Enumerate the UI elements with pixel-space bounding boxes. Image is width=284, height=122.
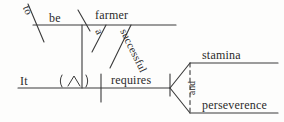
predicate-noun-divider-line [78,10,90,31]
object-second-label: perseverence [202,99,267,111]
subject-label: It [20,75,28,87]
verb-label: requires [111,74,151,86]
predicate-noun-label: farmer [95,9,128,21]
object-first-label: stamina [202,49,241,61]
conjunction-label: and [188,81,198,95]
sentence-diagram: It requires be farmer stamina perseveren… [0,0,284,122]
infinitive-verb-label: be [49,12,61,24]
ellipsis-caret-glyph [60,75,88,87]
